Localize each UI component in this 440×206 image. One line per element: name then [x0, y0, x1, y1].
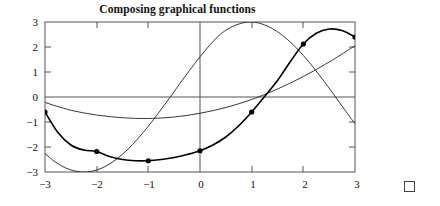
data-point-marker — [42, 109, 47, 114]
plot-area — [0, 0, 440, 206]
chart-figure: Composing graphical functions 3 2 1 0 −1… — [0, 0, 440, 206]
data-point-marker — [352, 34, 357, 39]
data-point-marker — [249, 109, 254, 114]
data-point-marker — [197, 148, 202, 153]
square-marker-icon — [404, 181, 415, 192]
data-point-marker — [301, 41, 306, 46]
data-point-marker — [146, 158, 151, 163]
data-point-marker — [94, 149, 99, 154]
